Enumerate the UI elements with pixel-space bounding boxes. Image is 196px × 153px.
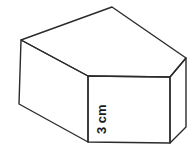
height-dimension-label: 3 cm	[94, 104, 109, 134]
pentagonal-prism-figure: 3 cm	[0, 0, 196, 153]
